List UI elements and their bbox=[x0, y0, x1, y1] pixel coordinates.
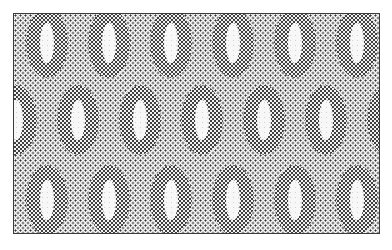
ring-ellipse bbox=[181, 85, 223, 155]
ring-ellipse bbox=[212, 165, 254, 234]
ring-inner-hole bbox=[40, 180, 54, 220]
halftone-plate bbox=[13, 13, 380, 234]
ring-inner-hole bbox=[288, 23, 302, 63]
ring-ellipse bbox=[150, 165, 192, 234]
ring-inner-hole bbox=[102, 23, 116, 63]
ring-ellipse bbox=[88, 165, 130, 234]
ring-ellipse bbox=[305, 85, 347, 155]
ring-inner-hole bbox=[288, 180, 302, 220]
ring-ellipse bbox=[243, 85, 285, 155]
ring-inner-hole bbox=[71, 100, 85, 140]
ring-inner-hole bbox=[164, 180, 178, 220]
ring-ellipse bbox=[274, 165, 316, 234]
ring-inner-hole bbox=[319, 100, 333, 140]
ring-inner-hole bbox=[164, 23, 178, 63]
ring-inner-hole bbox=[133, 100, 147, 140]
ring-inner-hole bbox=[350, 23, 364, 63]
ring-ellipse bbox=[57, 85, 99, 155]
ring-ellipse bbox=[336, 165, 378, 234]
ring-inner-hole bbox=[40, 23, 54, 63]
ring-ellipse bbox=[119, 85, 161, 155]
ring-inner-hole bbox=[257, 100, 271, 140]
ring-ellipse bbox=[26, 165, 68, 234]
ring-inner-hole bbox=[195, 100, 209, 140]
ring-inner-hole bbox=[226, 23, 240, 63]
image-canvas bbox=[0, 0, 392, 250]
ring-inner-hole bbox=[350, 180, 364, 220]
ring-inner-hole bbox=[102, 180, 116, 220]
ring-inner-hole bbox=[226, 180, 240, 220]
